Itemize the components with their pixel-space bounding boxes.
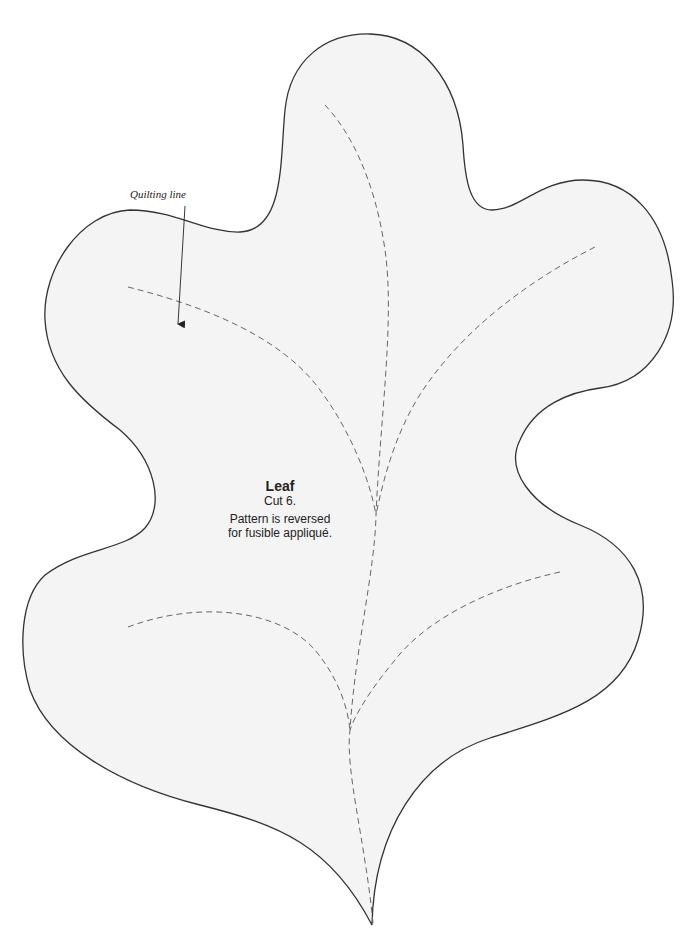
note-line-2: for fusible appliqué.	[200, 526, 360, 540]
quilting-line-callout: Quilting line	[130, 188, 186, 200]
leaf-outline	[23, 34, 673, 925]
cut-instruction: Cut 6.	[220, 494, 340, 508]
note-line-1: Pattern is reversed	[200, 512, 360, 526]
pattern-note: Pattern is reversed for fusible appliqué…	[200, 512, 360, 540]
pattern-title: Leaf	[220, 478, 340, 494]
leaf-pattern-diagram	[0, 0, 691, 952]
